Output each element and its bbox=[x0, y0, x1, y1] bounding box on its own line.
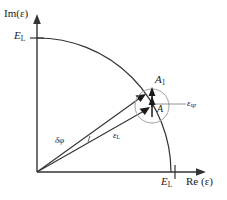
field-vector-lower-line bbox=[37, 111, 144, 172]
e-l-vertical-tick-label: EL bbox=[14, 30, 25, 42]
imaginary-axis-label: Im(ε) bbox=[4, 8, 28, 19]
field-vector-lower-arrowhead bbox=[140, 107, 151, 115]
e-l-horizontal-tick-label: EL bbox=[161, 176, 172, 188]
amplitude-a-symbol: A bbox=[157, 103, 163, 114]
vector-group bbox=[37, 94, 150, 172]
amplitude-a1-subscript: 1 bbox=[162, 78, 166, 87]
delta-phi-arc bbox=[88, 136, 90, 142]
e-l-horizontal-subscript: L bbox=[168, 180, 173, 189]
field-vector-upper-line bbox=[37, 98, 140, 172]
e-l-horizontal-symbol: E bbox=[161, 175, 168, 187]
epsilon-l-subscript: L bbox=[117, 134, 121, 140]
real-axis-label: Re (ε) bbox=[186, 176, 213, 187]
delta-phi-label: δφ bbox=[55, 136, 64, 145]
epsilon-sp-label: εsp bbox=[187, 99, 196, 108]
axis-group bbox=[30, 14, 206, 179]
arrow-a-arrowhead bbox=[149, 96, 156, 105]
e-l-vertical-subscript: L bbox=[21, 34, 26, 43]
epsilon-sp-subscript: sp bbox=[191, 102, 196, 108]
detail-arrow-group bbox=[149, 87, 156, 117]
amplitude-a-label: A bbox=[157, 104, 163, 114]
imaginary-axis-arrowhead bbox=[33, 14, 41, 24]
amplitude-a1-symbol: A bbox=[155, 73, 162, 85]
phasor-diagram-figure: Im(ε) EL Re (ε) EL A1 A εsp εL δφ bbox=[0, 0, 227, 200]
epsilon-l-label: εL bbox=[113, 131, 120, 140]
e-l-vertical-symbol: E bbox=[14, 29, 21, 41]
arrow-a1-arrowhead bbox=[149, 87, 156, 96]
amplitude-a1-label: A1 bbox=[155, 74, 165, 86]
delta-phi-symbol: δφ bbox=[55, 135, 64, 145]
